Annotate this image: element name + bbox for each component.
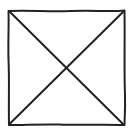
- placeholder-figure: [0, 0, 137, 132]
- image-placeholder-icon: [0, 0, 137, 132]
